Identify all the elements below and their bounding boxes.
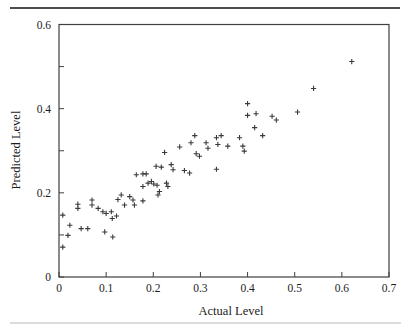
x-tick-label: 0.7 (382, 282, 397, 294)
data-point-marker (188, 140, 193, 145)
data-point-marker (85, 226, 90, 231)
data-point-marker (215, 142, 220, 147)
data-point-marker (260, 133, 265, 138)
data-point-marker (274, 117, 279, 122)
data-points (60, 59, 354, 250)
x-axis-tick-labels: 00.10.20.30.40.50.60.7 (56, 282, 396, 294)
x-tick-label: 0 (56, 282, 62, 294)
data-point-marker (214, 167, 219, 172)
x-axis-label: Actual Level (199, 304, 264, 318)
scatter-plot: 00.10.20.30.40.50.60.7 00.20.40.6 Actual… (0, 0, 411, 327)
y-tick-label: 0 (45, 271, 51, 283)
data-point-marker (65, 233, 70, 238)
data-point-marker (240, 144, 245, 149)
data-point-marker (122, 202, 127, 207)
x-tick-label: 0.2 (146, 282, 161, 294)
data-point-marker (67, 223, 72, 228)
data-point-marker (154, 183, 159, 188)
data-point-marker (269, 114, 274, 119)
data-point-marker (115, 197, 120, 202)
y-axis-label: Predicted Level (9, 110, 23, 189)
data-point-marker (127, 194, 132, 199)
data-point-marker (194, 151, 199, 156)
data-point-marker (89, 197, 94, 202)
y-axis-tick-labels: 00.20.40.6 (37, 19, 52, 284)
data-point-marker (119, 192, 124, 197)
data-point-marker (205, 146, 210, 151)
data-point-marker (60, 213, 65, 218)
data-point-marker (96, 206, 101, 211)
data-point-marker (203, 140, 208, 145)
data-point-marker (182, 168, 187, 173)
data-point-marker (219, 133, 224, 138)
y-tick-label: 0.2 (37, 187, 52, 199)
data-point-marker (252, 125, 257, 130)
data-point-marker (114, 213, 119, 218)
data-point-marker (75, 206, 80, 211)
data-point-marker (159, 165, 164, 170)
x-tick-label: 0.1 (99, 282, 114, 294)
figure-page: 00.10.20.30.40.50.60.7 00.20.40.6 Actual… (0, 0, 411, 327)
data-point-marker (110, 234, 115, 239)
data-point-marker (130, 197, 135, 202)
data-point-marker (349, 59, 354, 64)
data-point-marker (162, 150, 167, 155)
data-point-marker (154, 164, 159, 169)
y-tick-label: 0.4 (37, 103, 52, 115)
data-point-marker (242, 149, 247, 154)
data-point-marker (89, 202, 94, 207)
x-tick-label: 0.3 (193, 282, 208, 294)
data-point-marker (311, 86, 316, 91)
data-point-marker (132, 202, 137, 207)
data-point-marker (102, 229, 107, 234)
data-point-marker (295, 109, 300, 114)
data-point-marker (245, 113, 250, 118)
y-axis-ticks (59, 25, 64, 278)
x-tick-label: 0.5 (288, 282, 303, 294)
data-point-marker (134, 172, 139, 177)
data-point-marker (79, 226, 84, 231)
data-point-marker (197, 154, 202, 159)
data-point-marker (237, 135, 242, 140)
data-point-marker (192, 133, 197, 138)
data-point-marker (177, 144, 182, 149)
x-tick-label: 0.6 (335, 282, 350, 294)
data-point-marker (253, 111, 258, 116)
data-point-marker (214, 135, 219, 140)
data-point-marker (109, 209, 114, 214)
data-point-marker (170, 167, 175, 172)
x-tick-label: 0.4 (240, 282, 255, 294)
bottom-rule (10, 322, 401, 324)
y-tick-label: 0.6 (37, 19, 52, 31)
x-axis-ticks (59, 272, 389, 277)
data-point-marker (245, 101, 250, 106)
data-point-marker (110, 216, 115, 221)
data-point-marker (60, 245, 65, 250)
data-point-marker (144, 171, 149, 176)
data-point-marker (140, 198, 145, 203)
data-point-marker (225, 144, 230, 149)
data-point-marker (140, 184, 145, 189)
plot-frame (59, 25, 389, 278)
data-point-marker (187, 170, 192, 175)
data-point-marker (169, 162, 174, 167)
